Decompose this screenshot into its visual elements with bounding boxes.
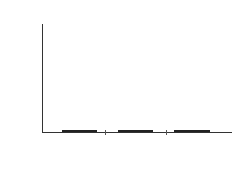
bar-tattoo-parlor	[118, 130, 153, 132]
x-axis	[42, 132, 232, 133]
y-axis	[42, 24, 43, 133]
x-tick-separator	[105, 130, 106, 135]
bar-no-tattoo	[62, 130, 97, 132]
bar-tattoo-elsewhere	[174, 130, 210, 132]
x-tick-separator	[166, 130, 167, 135]
